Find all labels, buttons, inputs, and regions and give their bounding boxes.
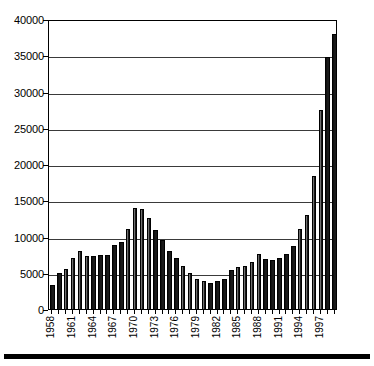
x-tick-mark [230, 310, 231, 314]
x-tick-label: 1979 [191, 316, 201, 338]
bar [91, 256, 96, 309]
x-tick-mark [279, 310, 280, 314]
bar [50, 285, 55, 309]
y-tick-label: 35000 [14, 51, 44, 62]
bar [236, 267, 241, 309]
y-tick-label: 5000 [20, 268, 44, 279]
bar [71, 258, 76, 309]
y-tick-label: 30000 [14, 87, 44, 98]
x-tick-mark [100, 310, 101, 314]
x-tick-mark [299, 310, 300, 314]
bar [140, 209, 145, 309]
y-tick-label: 20000 [14, 160, 44, 171]
x-tick-mark [120, 310, 121, 314]
bar [64, 269, 69, 309]
x-tick-label: 1964 [88, 316, 98, 338]
bar [181, 266, 186, 309]
plot-area [48, 20, 337, 310]
bar [332, 34, 337, 310]
x-tick-mark [189, 310, 190, 314]
x-tick-mark [313, 310, 314, 314]
bar [250, 262, 255, 309]
bar [119, 242, 124, 309]
bar [263, 259, 268, 309]
x-tick-mark [168, 310, 169, 314]
bar [298, 229, 303, 309]
x-tick-mark [51, 310, 52, 314]
y-tick-label: 15000 [14, 196, 44, 207]
x-tick-mark [65, 310, 66, 314]
bar [325, 57, 330, 309]
bar [305, 215, 310, 309]
x-tick-mark [182, 310, 183, 314]
bar [85, 256, 90, 309]
x-tick-mark [237, 310, 238, 314]
bar [319, 110, 324, 309]
x-tick-mark [113, 310, 114, 314]
bar [160, 240, 165, 309]
x-tick-mark [196, 310, 197, 314]
bar [147, 218, 152, 309]
bar [270, 260, 275, 309]
x-tick-mark [292, 310, 293, 314]
x-tick-mark [203, 310, 204, 314]
y-tick-label: 10000 [14, 232, 44, 243]
bar [208, 283, 213, 309]
bar [202, 281, 207, 309]
x-tick-mark [306, 310, 307, 314]
bar [195, 279, 200, 309]
x-tick-label: 1958 [46, 316, 56, 338]
x-tick-label: 1985 [232, 316, 242, 338]
x-tick-mark [251, 310, 252, 314]
x-tick-mark [327, 310, 328, 314]
bar [291, 246, 296, 309]
y-tick-label: 40000 [14, 15, 44, 26]
x-tick-mark [155, 310, 156, 314]
bar [188, 273, 193, 309]
bar [105, 255, 110, 309]
bar [312, 176, 317, 309]
x-tick-mark [217, 310, 218, 314]
bar [257, 254, 262, 309]
bar [167, 251, 172, 309]
bar-chart-figure: 0500010000150002000025000300003500040000… [0, 0, 374, 366]
x-tick-mark [141, 310, 142, 314]
x-tick-label: 1991 [274, 316, 284, 338]
x-tick-mark [244, 310, 245, 314]
x-tick-label: 1961 [67, 316, 77, 338]
y-tick-label: 25000 [14, 123, 44, 134]
bar [174, 258, 179, 309]
x-tick-mark [320, 310, 321, 314]
x-tick-mark [162, 310, 163, 314]
x-tick-label: 1967 [108, 316, 118, 338]
x-tick-mark [106, 310, 107, 314]
bar [277, 258, 282, 309]
x-tick-mark [210, 310, 211, 314]
bar [243, 266, 248, 310]
x-tick-mark [285, 310, 286, 314]
x-tick-label: 1976 [170, 316, 180, 338]
bar [57, 273, 62, 309]
bar [112, 245, 117, 309]
bottom-divider-rule [4, 354, 370, 359]
x-tick-label: 1997 [315, 316, 325, 338]
x-tick-label: 1994 [294, 316, 304, 338]
bar [222, 279, 227, 309]
x-tick-mark [72, 310, 73, 314]
x-tick-mark [58, 310, 59, 314]
x-tick-mark [175, 310, 176, 314]
bar [229, 270, 234, 309]
bar [126, 229, 131, 309]
x-tick-mark [148, 310, 149, 314]
bar [215, 281, 220, 309]
bar [153, 230, 158, 309]
y-axis: 0500010000150002000025000300003500040000 [0, 20, 44, 310]
x-tick-mark [223, 310, 224, 314]
bar-series [49, 21, 336, 309]
x-tick-mark [334, 310, 335, 314]
bar [78, 251, 83, 309]
bar [284, 254, 289, 309]
x-tick-mark [86, 310, 87, 314]
x-tick-mark [79, 310, 80, 314]
x-tick-mark [93, 310, 94, 314]
